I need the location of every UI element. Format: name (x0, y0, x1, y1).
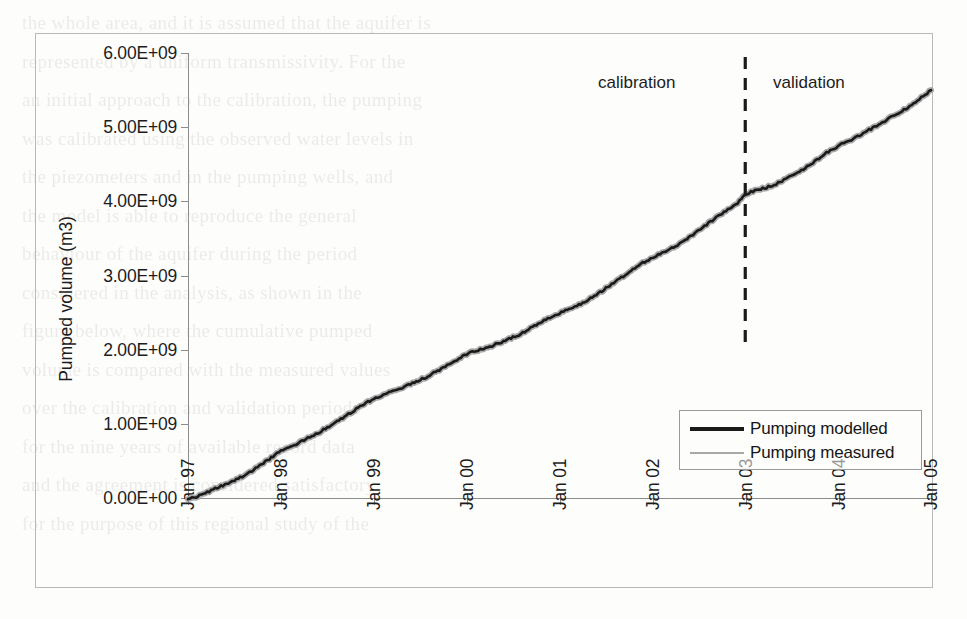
plot-area: 0.00E+00 1.00E+09 2.00E+09 3.00E+09 4.00… (188, 53, 931, 498)
legend-item-measured: Pumping measured (680, 441, 921, 465)
y-tick-mark (181, 53, 188, 54)
y-tick-mark (181, 201, 188, 202)
annotation-calibration: calibration (598, 73, 676, 93)
chart-legend: Pumping modelled Pumping measured (679, 410, 922, 470)
y-tick-mark (181, 127, 188, 128)
y-tick-label: 4.00E+09 (103, 191, 177, 212)
legend-label-modelled: Pumping modelled (750, 419, 888, 439)
y-tick-mark (181, 424, 188, 425)
y-axis-title: Pumped volume (m3) (56, 216, 77, 381)
y-tick-label: 3.00E+09 (103, 266, 177, 287)
y-tick-mark (181, 350, 188, 351)
annotation-validation: validation (773, 73, 845, 93)
chart-figure: Pumped volume (m3) 0.00E+00 1.00E+09 2.0… (35, 33, 933, 588)
y-tick-mark (181, 276, 188, 277)
y-tick-label: 1.00E+09 (103, 414, 177, 435)
legend-line-swatch-modelled (690, 422, 744, 436)
legend-item-modelled: Pumping modelled (680, 417, 921, 441)
y-tick-label: 0.00E+00 (103, 488, 177, 509)
y-tick-label: 2.00E+09 (103, 340, 177, 361)
y-tick-label: 5.00E+09 (103, 117, 177, 138)
legend-label-measured: Pumping measured (750, 443, 894, 463)
y-tick-label: 6.00E+09 (103, 43, 177, 64)
legend-line-swatch-measured (690, 446, 744, 460)
